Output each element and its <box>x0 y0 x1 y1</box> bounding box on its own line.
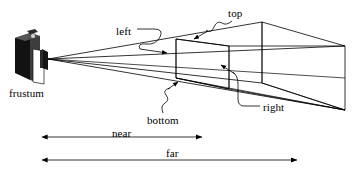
label-right: right <box>263 102 284 113</box>
ray-top-right <box>48 46 345 59</box>
center-axis-line <box>48 59 345 78</box>
ray-bottom-right <box>48 59 345 110</box>
frustum-diagram: frustum left top bottom right near far <box>0 0 362 177</box>
label-far: far <box>166 148 179 159</box>
ray-top-left <box>48 22 262 59</box>
edge-near-top <box>176 39 229 46</box>
label-bottom: bottom <box>147 115 179 126</box>
label-left: left <box>116 26 131 37</box>
label-near: near <box>112 128 131 139</box>
label-top: top <box>228 8 242 19</box>
frustum-guide-lines <box>48 22 345 110</box>
frustum-rays <box>48 22 345 110</box>
label-frustum: frustum <box>9 88 44 99</box>
leader-bottom <box>162 82 178 113</box>
near-plane <box>176 39 229 89</box>
leader-top <box>194 21 232 39</box>
diagram-canvas <box>0 0 362 177</box>
camera-icon <box>15 29 48 84</box>
